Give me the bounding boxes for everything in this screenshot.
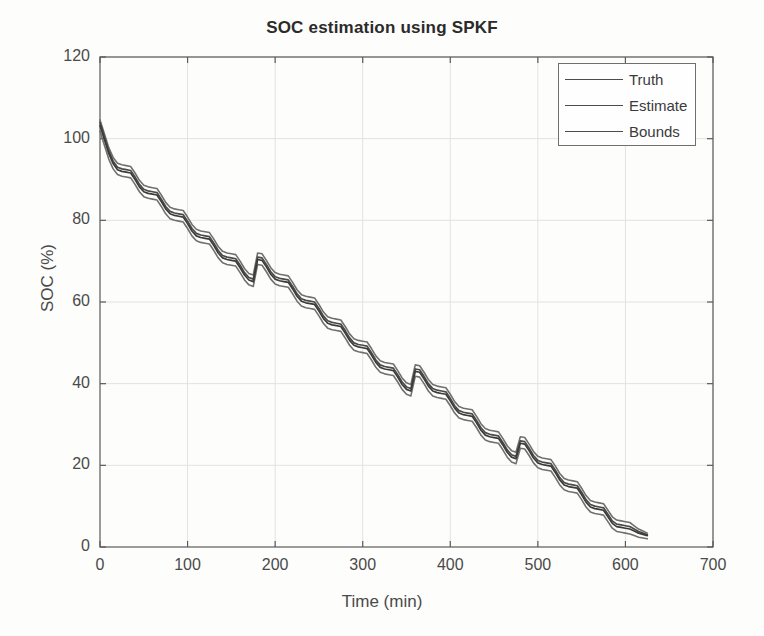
legend-label-estimate: Estimate	[629, 98, 687, 113]
x-axis-label: Time (min)	[0, 592, 764, 612]
y-tick-label: 100	[34, 129, 90, 147]
series-bounds-upper	[100, 120, 647, 533]
y-tick-label: 0	[34, 537, 90, 555]
legend-line-bounds-icon	[565, 131, 623, 132]
x-tick-label: 200	[245, 556, 305, 574]
legend-label-truth: Truth	[629, 72, 663, 87]
y-tick-label: 120	[34, 47, 90, 65]
series-estimate	[100, 126, 647, 536]
legend-line-estimate-icon	[565, 105, 623, 106]
legend-line-truth-icon	[565, 79, 623, 80]
legend-item-truth[interactable]: Truth	[565, 68, 663, 90]
chart-figure: SOC estimation using SPKF 02040608010012…	[0, 0, 764, 636]
y-tick-label: 40	[34, 374, 90, 392]
x-tick-label: 300	[333, 556, 393, 574]
legend-item-bounds[interactable]: Bounds	[565, 120, 680, 142]
y-tick-label: 20	[34, 455, 90, 473]
x-tick-label: 400	[420, 556, 480, 574]
x-tick-label: 0	[70, 556, 130, 574]
legend-item-estimate[interactable]: Estimate	[565, 94, 687, 116]
legend-label-bounds: Bounds	[629, 124, 680, 139]
legend[interactable]: Truth Estimate Bounds	[558, 63, 696, 146]
series-bounds-lower	[100, 131, 647, 539]
x-tick-label: 600	[595, 556, 655, 574]
y-axis-label: SOC (%)	[38, 218, 58, 338]
x-tick-label: 500	[508, 556, 568, 574]
series-truth	[100, 122, 647, 534]
x-tick-label: 700	[683, 556, 743, 574]
x-tick-label: 100	[158, 556, 218, 574]
